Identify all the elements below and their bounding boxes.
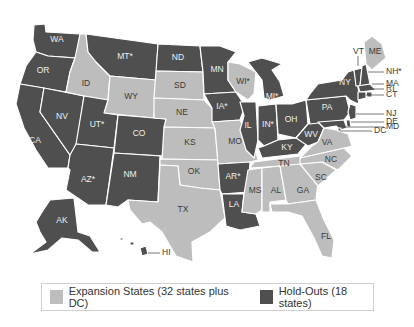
state-label-ct: CT	[386, 89, 397, 99]
state-label-ny: NY	[339, 77, 351, 87]
state-label-in: IN*	[262, 119, 275, 129]
state-label-nd: ND	[172, 52, 184, 62]
state-label-fl: FL	[321, 231, 331, 241]
state-ct[interactable]	[358, 92, 366, 100]
legend-expansion: Expansion States (32 states plus DC)	[50, 285, 234, 309]
state-label-al: AL	[271, 185, 282, 195]
state-label-co: CO	[133, 128, 146, 138]
state-label-tx: TX	[178, 204, 189, 214]
state-label-ak: AK	[56, 215, 68, 225]
state-label-sc: SC	[315, 172, 327, 182]
state-label-tn: TN	[278, 158, 289, 168]
state-label-la: LA	[229, 199, 240, 209]
legend-holdout: Hold-Outs (18 states)	[260, 285, 373, 309]
legend-holdout-label: Hold-Outs (18 states)	[279, 285, 373, 309]
state-label-mi: MI*	[266, 91, 279, 101]
state-label-ca: CA	[29, 135, 41, 145]
state-label-mo: MO	[228, 136, 242, 146]
state-label-wy: WY	[124, 91, 138, 101]
state-label-ut: UT*	[90, 119, 105, 129]
state-label-wi: WI*	[236, 76, 250, 86]
state-label-va: VA	[322, 137, 333, 147]
state-label-ne: NE	[176, 107, 188, 117]
state-label-md: MD	[386, 121, 399, 131]
state-label-nm: NM	[123, 169, 136, 179]
legend-expansion-label: Expansion States (32 states plus DC)	[69, 285, 234, 309]
state-label-nc: NC	[325, 154, 337, 164]
state-ma[interactable]	[358, 84, 376, 92]
state-label-pa: PA	[322, 102, 333, 112]
state-label-or: OR	[37, 65, 50, 75]
state-label-wa: WA	[50, 34, 64, 44]
state-label-vt: VT	[353, 46, 364, 56]
state-nj[interactable]	[348, 104, 356, 120]
state-label-ok: OK	[188, 166, 201, 176]
state-label-wv: WV	[304, 129, 318, 139]
state-label-oh: OH	[285, 114, 298, 124]
state-label-nv: NV	[56, 111, 68, 121]
state-label-mn: MN	[210, 64, 223, 74]
state-label-ar: AR*	[225, 171, 241, 181]
holdout-swatch	[260, 290, 273, 304]
state-label-ks: KS	[184, 137, 196, 147]
state-label-me: ME	[369, 46, 382, 56]
expansion-swatch	[50, 290, 63, 304]
state-label-sd: SD	[174, 80, 186, 90]
state-label-az: AZ*	[81, 174, 96, 184]
us-state-map: WAORCANVIDMT*WYUT*AZ*CONMNDSDNEKSOKTXMNI…	[0, 0, 414, 270]
state-ak[interactable]	[30, 198, 100, 254]
state-label-ga: GA	[297, 185, 310, 195]
state-label-il: IL	[244, 120, 251, 130]
state-ri[interactable]	[366, 92, 372, 97]
legend: Expansion States (32 states plus DC) Hol…	[41, 283, 374, 311]
state-label-id: ID	[82, 78, 91, 88]
state-fl[interactable]	[270, 200, 334, 258]
state-label-hi: HI	[162, 247, 171, 257]
state-hi[interactable]	[120, 238, 148, 256]
state-dc[interactable]	[338, 128, 341, 131]
state-label-mt: MT*	[117, 51, 133, 61]
state-label-ms: MS	[249, 185, 262, 195]
state-label-ky: KY	[281, 142, 293, 152]
state-nm[interactable]	[106, 153, 160, 207]
state-label-ia: IA*	[216, 101, 228, 111]
state-label-nh: NH*	[386, 66, 402, 76]
